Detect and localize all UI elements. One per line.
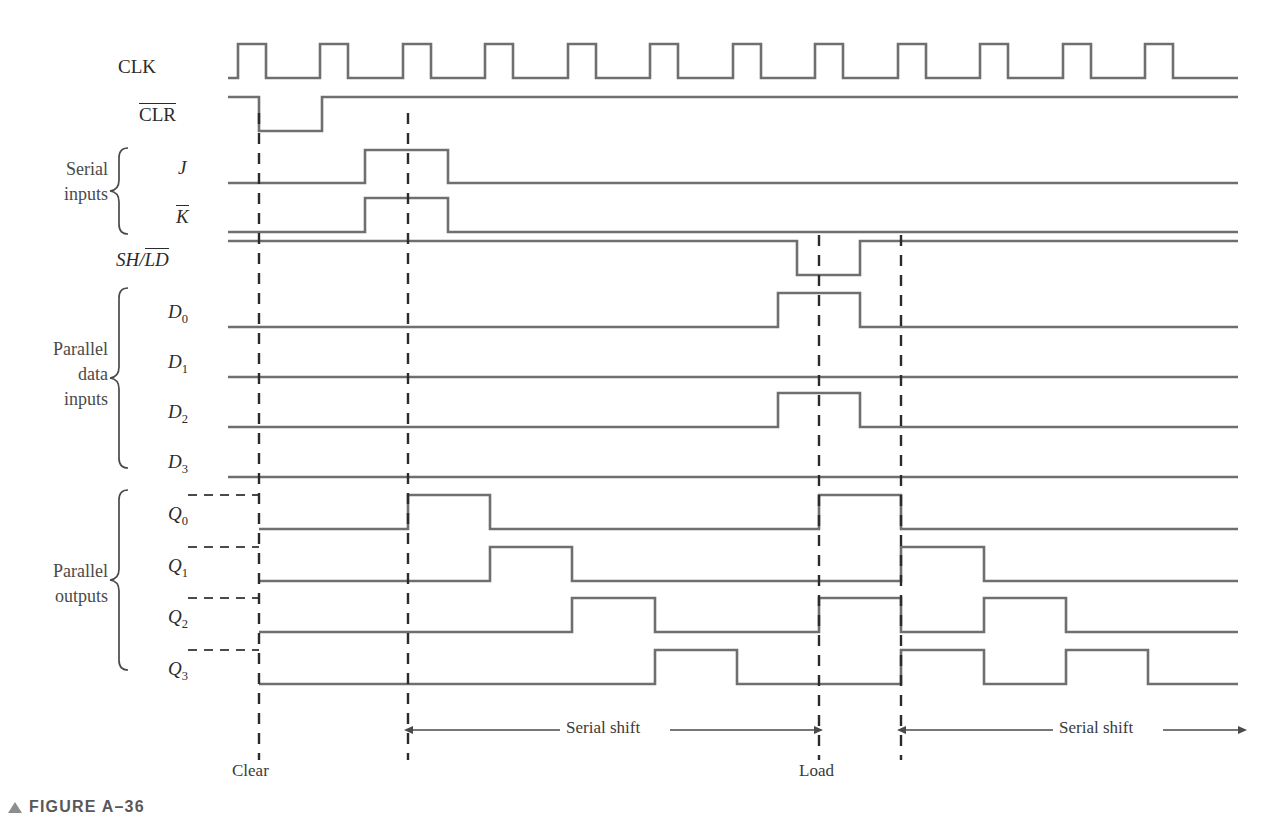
d1-sub: 1 — [182, 362, 188, 376]
signal-label-kbar: K — [176, 205, 189, 227]
waveform-traces — [228, 44, 1238, 684]
group-label-parallel-data-inputs-line2: data — [8, 365, 108, 383]
q2-sub: 2 — [182, 617, 188, 631]
waveform-d2 — [228, 393, 1238, 427]
waveform-j — [228, 150, 1238, 183]
waveform-q0 — [259, 495, 1238, 529]
q3-sub: 3 — [182, 669, 188, 683]
waveform-clr — [228, 97, 1238, 131]
group-label-parallel-outputs-line2: outputs — [8, 587, 108, 605]
timing-diagram-figure — [0, 0, 1279, 836]
q3-base: Q — [168, 658, 182, 679]
d0-base: D — [168, 301, 182, 322]
q0-sub: 0 — [182, 514, 188, 528]
waveform-q2 — [259, 598, 1238, 632]
kbar-overline-text: K — [176, 205, 189, 227]
d2-base: D — [168, 401, 182, 422]
d2-sub: 2 — [182, 412, 188, 426]
waveform-d0 — [228, 293, 1238, 327]
q1-sub: 1 — [182, 566, 188, 580]
brace-parallel-outputs — [110, 490, 128, 670]
clear-marker-label: Clear — [232, 762, 269, 779]
group-braces — [110, 148, 128, 670]
q2-base: Q — [168, 606, 182, 627]
signal-label-d1: D1 — [168, 352, 188, 375]
signal-label-d2: D2 — [168, 402, 188, 425]
signal-label-shld: SH/LD — [116, 248, 169, 270]
signal-label-q2: Q2 — [168, 607, 188, 630]
figure-caption-text: FIGURE A–36 — [29, 798, 145, 816]
q-level-stubs — [188, 495, 259, 650]
ld-overline-text: LD — [145, 248, 169, 270]
brace-parallel-data-inputs — [110, 288, 128, 468]
signal-label-j: J — [178, 158, 186, 177]
figure-caption: FIGURE A–36 — [8, 798, 145, 816]
serial-shift-2-label: Serial shift — [1059, 719, 1133, 736]
brace-serial-inputs — [110, 148, 128, 234]
d3-sub: 3 — [182, 462, 188, 476]
signal-label-q1: Q1 — [168, 556, 188, 579]
signal-label-q0: Q0 — [168, 504, 188, 527]
signal-label-d0: D0 — [168, 302, 188, 325]
q1-base: Q — [168, 555, 182, 576]
d1-base: D — [168, 351, 182, 372]
group-label-serial-inputs-line2: inputs — [18, 185, 108, 203]
waveform-q3 — [259, 650, 1238, 684]
signal-label-clr: CLR — [139, 103, 176, 125]
d3-base: D — [168, 451, 182, 472]
waveform-shld — [228, 241, 1238, 275]
waveform-kbar — [228, 198, 1238, 232]
signal-label-d3: D3 — [168, 452, 188, 475]
shld-prefix-text: SH/ — [116, 249, 145, 270]
group-label-serial-inputs-line1: Serial — [18, 160, 108, 178]
group-label-parallel-outputs-line1: Parallel — [8, 562, 108, 580]
waveform-clk — [228, 44, 1238, 78]
serial-shift-1-label: Serial shift — [566, 719, 640, 736]
q0-base: Q — [168, 503, 182, 524]
event-lines — [259, 113, 901, 760]
load-marker-label: Load — [799, 762, 834, 779]
d0-sub: 0 — [182, 312, 188, 326]
waveform-q1 — [259, 547, 1238, 581]
signal-label-q3: Q3 — [168, 659, 188, 682]
up-triangle-icon — [8, 802, 22, 813]
group-label-parallel-data-inputs-line3: inputs — [8, 390, 108, 408]
group-label-parallel-data-inputs-line1: Parallel — [8, 340, 108, 358]
signal-label-clk: CLK — [118, 57, 156, 76]
clr-overline-text: CLR — [139, 103, 176, 125]
